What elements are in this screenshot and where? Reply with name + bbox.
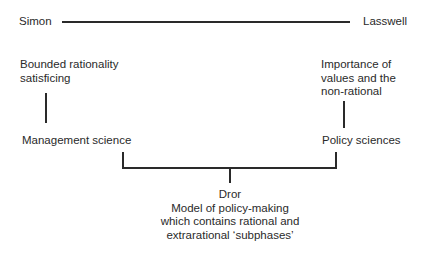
spectrum-line (62, 21, 350, 23)
right-description: Importance of values and the non-rationa… (321, 58, 396, 99)
dror-block: Dror Model of policy-making which contai… (130, 188, 330, 242)
right-description-line: non-rational (321, 85, 396, 99)
bracket-stem (229, 168, 231, 183)
left-description: Bounded rationality satisficing (20, 58, 118, 85)
left-description-line: satisficing (20, 72, 118, 86)
lasswell-label: Lasswell (363, 15, 407, 29)
dror-line: extrarational ‘subphases’ (130, 229, 330, 243)
left-description-line: Bounded rationality (20, 58, 118, 72)
right-description-line: values and the (321, 72, 396, 86)
dror-line: which contains rational and (130, 215, 330, 229)
left-connector (45, 93, 47, 123)
simon-label: Simon (19, 15, 52, 29)
right-connector (343, 101, 345, 128)
policy-sciences-label: Policy sciences (322, 134, 401, 148)
right-description-line: Importance of (321, 58, 396, 72)
management-science-label: Management science (22, 134, 131, 148)
dror-title: Dror (130, 188, 330, 202)
dror-line: Model of policy-making (130, 202, 330, 216)
